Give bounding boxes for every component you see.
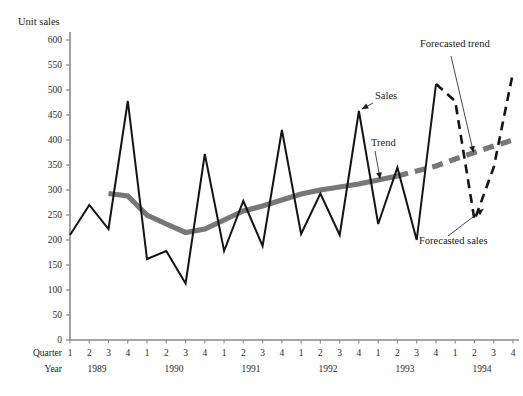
sales-annotation-label: Sales	[375, 90, 397, 101]
quarter-tick-label: 3	[414, 348, 419, 358]
quarter-tick-label: 2	[395, 348, 400, 358]
quarter-tick-label: 4	[511, 348, 516, 358]
year-tick-label: 1993	[396, 364, 415, 374]
y-tick-label: 100	[48, 285, 63, 295]
chart-background	[0, 0, 523, 396]
year-row-header: Year	[44, 364, 62, 374]
y-tick-label: 200	[48, 235, 63, 245]
quarter-row-header: Quarter	[33, 348, 63, 358]
forecasted-trend-annotation-label: Forecasted trend	[420, 38, 490, 49]
quarter-tick-label: 4	[357, 348, 362, 358]
quarter-tick-label: 3	[337, 348, 342, 358]
quarter-tick-label: 4	[202, 348, 207, 358]
y-tick-label: 500	[48, 85, 63, 95]
y-tick-label: 550	[48, 60, 63, 70]
quarter-tick-label: 1	[376, 348, 381, 358]
year-tick-label: 1991	[241, 364, 260, 374]
y-tick-label: 600	[48, 35, 63, 45]
y-tick-label: 400	[48, 135, 63, 145]
unit-sales-chart: 600550500450400350300250200150100500Unit…	[0, 0, 523, 396]
quarter-tick-label: 4	[125, 348, 130, 358]
y-tick-label: 150	[48, 260, 63, 270]
chart-page: 600550500450400350300250200150100500Unit…	[0, 0, 523, 396]
quarter-tick-label: 3	[106, 348, 111, 358]
quarter-tick-label: 3	[260, 348, 265, 358]
quarter-tick-label: 1	[145, 348, 150, 358]
quarter-tick-label: 4	[279, 348, 284, 358]
y-tick-label: 450	[48, 110, 63, 120]
forecasted-sales-annotation-label: Forecasted sales	[419, 235, 488, 246]
y-tick-label: 0	[57, 335, 62, 345]
quarter-tick-label: 3	[183, 348, 188, 358]
quarter-tick-label: 2	[241, 348, 246, 358]
y-axis-title: Unit sales	[18, 16, 60, 27]
quarter-tick-label: 1	[222, 348, 227, 358]
quarter-tick-label: 4	[434, 348, 439, 358]
y-tick-label: 350	[48, 160, 63, 170]
quarter-tick-label: 2	[318, 348, 323, 358]
year-tick-label: 1989	[87, 364, 106, 374]
quarter-tick-label: 1	[453, 348, 458, 358]
quarter-tick-label: 1	[68, 348, 73, 358]
year-tick-label: 1990	[164, 364, 183, 374]
y-tick-label: 50	[53, 310, 63, 320]
trend-annotation-label: Trend	[371, 137, 396, 148]
y-tick-label: 300	[48, 185, 63, 195]
year-tick-label: 1992	[319, 364, 338, 374]
quarter-tick-label: 3	[491, 348, 496, 358]
year-tick-label: 1994	[473, 364, 492, 374]
quarter-tick-label: 2	[472, 348, 477, 358]
quarter-tick-label: 2	[87, 348, 92, 358]
y-tick-label: 250	[48, 210, 63, 220]
quarter-tick-label: 2	[164, 348, 169, 358]
quarter-tick-label: 1	[299, 348, 304, 358]
